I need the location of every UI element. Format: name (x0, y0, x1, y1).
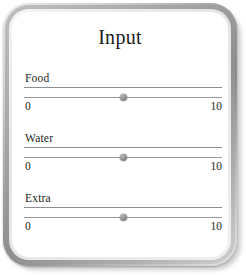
slider-divider (24, 147, 222, 148)
slider-label-extra: Extra (24, 192, 222, 205)
slider-divider (24, 207, 222, 208)
slider-divider (24, 87, 222, 88)
slider-row[interactable]: Food 0 10 (24, 72, 222, 116)
slider-max-label: 10 (211, 99, 223, 114)
slider-min-label: 0 (25, 219, 31, 234)
slider-max-label: 10 (211, 159, 223, 174)
slider-label-food: Food (24, 72, 222, 85)
slider-min-label: 0 (25, 99, 31, 114)
slider-scale: 0 10 (24, 159, 222, 174)
input-panel-screen: Input Food 0 10 Water (0, 0, 246, 275)
slider-scale: 0 10 (24, 219, 222, 234)
slider-row[interactable]: Extra 0 10 (24, 192, 222, 236)
slider-row[interactable]: Water 0 10 (24, 132, 222, 176)
input-panel: Input Food 0 10 Water (12, 12, 228, 257)
slider-label-water: Water (24, 132, 222, 145)
slider-min-label: 0 (25, 159, 31, 174)
slider-max-label: 10 (211, 219, 223, 234)
page-title: Input (12, 25, 228, 49)
slider-scale: 0 10 (24, 99, 222, 114)
slider-list: Food 0 10 Water (24, 72, 222, 236)
